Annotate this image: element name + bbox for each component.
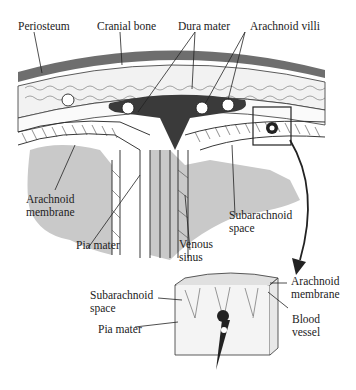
label-venous-sinus-1: Venous: [179, 238, 213, 250]
inset-label-subarachnoid-space-1: Subarachnoid: [90, 289, 153, 301]
inset-label-pia-mater: Pia mater: [98, 323, 142, 335]
inset-label-arachnoid-membrane-2: membrane: [291, 288, 340, 300]
label-subarachnoid-space-1: Subarachnoid: [229, 209, 292, 221]
label-cranial-bone: Cranial bone: [97, 20, 156, 32]
label-periosteum: Periosteum: [18, 20, 70, 32]
label-arachnoid-villi: Arachnoid villi: [250, 20, 320, 32]
label-dura-mater: Dura mater: [178, 20, 230, 32]
label-venous-sinus-2: sinus: [179, 251, 203, 263]
inset-label-blood-vessel-1: Blood: [292, 313, 320, 325]
label-arachnoid-membrane-1: Arachnoid: [26, 193, 75, 205]
label-pia-mater: Pia mater: [76, 239, 120, 251]
inset-label-arachnoid-membrane-1: Arachnoid: [291, 275, 340, 287]
inset-label-blood-vessel-2: vessel: [292, 326, 320, 338]
label-subarachnoid-space-2: space: [229, 222, 255, 234]
meninges-diagram: Periosteum Cranial bone Dura mater Arach…: [0, 0, 356, 390]
inset-label-subarachnoid-space-2: space: [90, 302, 116, 314]
label-arachnoid-membrane-2: membrane: [26, 206, 75, 218]
